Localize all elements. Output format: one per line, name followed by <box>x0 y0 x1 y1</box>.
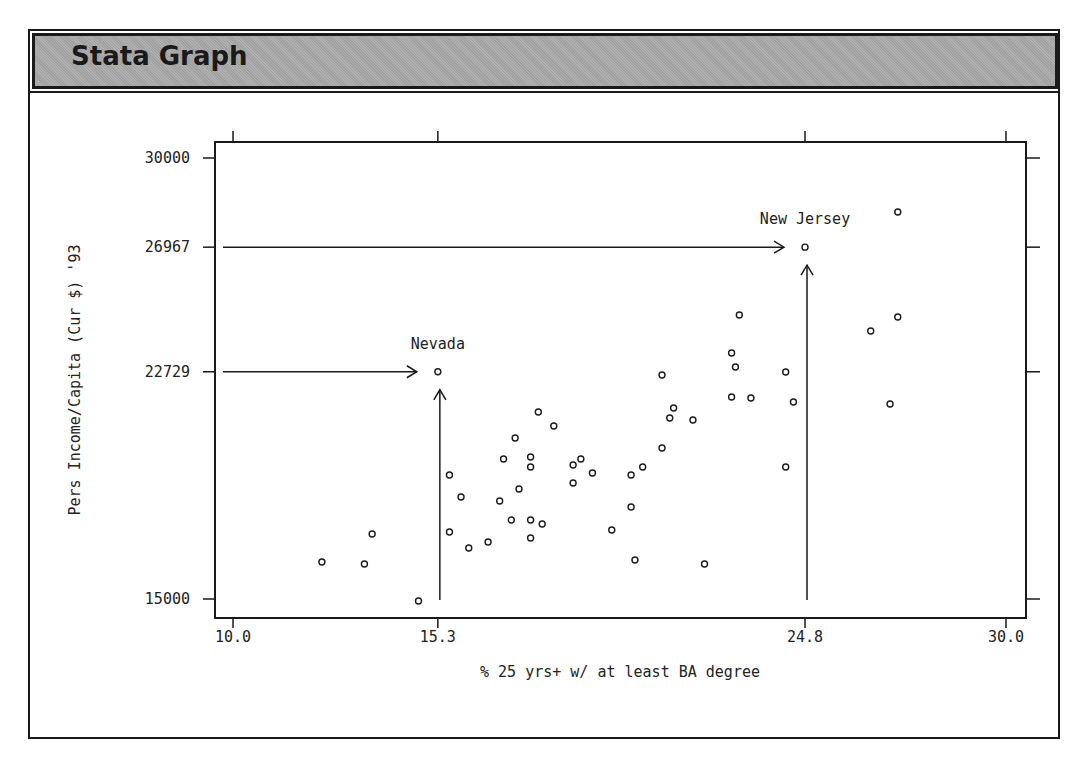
data-point <box>690 417 696 423</box>
data-point <box>732 364 738 370</box>
data-point <box>790 399 796 405</box>
y-axis-label: Pers Income/Capita (Cur $) '93 <box>66 245 84 516</box>
data-point <box>895 314 901 320</box>
axis-ticks: 10.015.324.830.015000227292696730000 <box>145 131 1040 646</box>
data-point <box>887 401 893 407</box>
annotation-arrows: NevadaNew Jersey <box>223 210 850 600</box>
annotation-label: Nevada <box>411 335 465 353</box>
data-point <box>667 415 673 421</box>
data-point <box>528 454 534 460</box>
data-point <box>528 517 534 523</box>
data-point <box>783 369 789 375</box>
data-point <box>802 244 808 250</box>
data-point <box>528 464 534 470</box>
data-point <box>458 494 464 500</box>
plot-area <box>215 142 1026 618</box>
data-point <box>497 498 503 504</box>
data-point <box>446 529 452 535</box>
x-tick-label: 24.8 <box>787 628 823 646</box>
y-tick-label: 15000 <box>145 590 190 608</box>
data-point <box>512 435 518 441</box>
x-tick-label: 15.3 <box>420 628 456 646</box>
data-point <box>578 456 584 462</box>
scatter-chart: 10.015.324.830.015000227292696730000 Nev… <box>0 0 1084 767</box>
data-point <box>416 598 422 604</box>
y-tick-label: 22729 <box>145 363 190 381</box>
y-tick-label: 26967 <box>145 238 190 256</box>
y-tick-label: 30000 <box>145 149 190 167</box>
data-point <box>528 535 534 541</box>
data-point <box>369 531 375 537</box>
data-point <box>632 557 638 563</box>
data-point <box>570 480 576 486</box>
data-point <box>535 409 541 415</box>
data-point <box>361 561 367 567</box>
data-point <box>659 372 665 378</box>
data-point <box>589 470 595 476</box>
data-point <box>628 504 634 510</box>
data-point <box>609 527 615 533</box>
data-point <box>551 423 557 429</box>
data-point <box>868 328 874 334</box>
data-point <box>736 312 742 318</box>
x-axis-label: % 25 yrs+ w/ at least BA degree <box>480 663 760 681</box>
data-point <box>671 405 677 411</box>
x-tick-label: 10.0 <box>215 628 251 646</box>
data-point <box>446 472 452 478</box>
data-point <box>516 486 522 492</box>
data-point <box>466 545 472 551</box>
annotation-label: New Jersey <box>760 210 850 228</box>
data-point <box>729 394 735 400</box>
data-point <box>508 517 514 523</box>
data-point <box>501 456 507 462</box>
data-point <box>570 462 576 468</box>
data-point <box>319 559 325 565</box>
data-point <box>435 369 441 375</box>
data-point <box>729 350 735 356</box>
data-point <box>539 521 545 527</box>
data-point <box>748 395 754 401</box>
x-tick-label: 30.0 <box>988 628 1024 646</box>
axis-labels: % 25 yrs+ w/ at least BA degree Pers Inc… <box>66 245 760 681</box>
plot-border <box>215 142 1026 618</box>
data-point <box>640 464 646 470</box>
data-point <box>659 445 665 451</box>
data-point <box>485 539 491 545</box>
data-points <box>319 209 901 604</box>
data-point <box>895 209 901 215</box>
data-point <box>628 472 634 478</box>
data-point <box>702 561 708 567</box>
data-point <box>783 464 789 470</box>
